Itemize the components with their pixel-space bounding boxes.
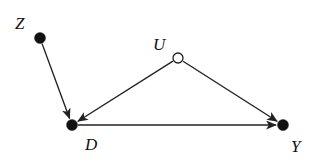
- node-y: [278, 120, 289, 131]
- node-z: [35, 33, 46, 44]
- node-label-z: Z: [15, 15, 24, 32]
- node-label-d: D: [85, 136, 97, 153]
- node-d: [67, 120, 78, 131]
- causal-diagram: [0, 0, 320, 163]
- edge-z-to-d: [42, 44, 70, 119]
- edge-u-to-y: [183, 61, 277, 121]
- node-label-u: U: [153, 36, 165, 53]
- edge-u-to-d: [78, 61, 173, 121]
- node-u: [173, 53, 183, 63]
- node-label-y: Y: [291, 138, 300, 155]
